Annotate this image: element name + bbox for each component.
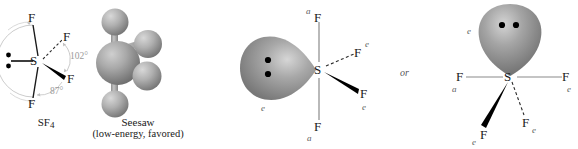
angle-arrowhead-87 bbox=[37, 93, 40, 96]
equatorial-tag-right: e bbox=[567, 85, 571, 94]
ligand-label-f-lower-left: F bbox=[480, 128, 487, 141]
ball-model-caption-line2: (low-energy, favored) bbox=[84, 128, 192, 139]
ligand-label-f-left: F bbox=[456, 70, 463, 83]
lone-pair-dot-right bbox=[513, 22, 519, 28]
equatorial-tag-upper: e bbox=[365, 40, 369, 49]
center-atom-label-s: S bbox=[314, 63, 321, 76]
lone-pair-dot-upper bbox=[265, 57, 271, 63]
lone-pair-dot-upper bbox=[6, 53, 11, 58]
ball-and-stick-panel: Seesaw (low-energy, favored) bbox=[84, 0, 192, 149]
bond-s-f-equatorial-dashed bbox=[326, 54, 354, 66]
bond-s-f-equatorial-wedge bbox=[324, 72, 359, 94]
ligand-label-f-equatorial-upper: F bbox=[354, 46, 361, 59]
middle-structure-drawing bbox=[228, 0, 388, 149]
ligand-label-f-lower-right: F bbox=[522, 116, 529, 129]
bond-s-f-axial-bottom bbox=[33, 67, 38, 98]
ligand-label-f-axial-top: F bbox=[314, 11, 321, 24]
ball-model-caption-line1: Seesaw bbox=[84, 116, 192, 128]
axial-tag-bottom: a bbox=[307, 134, 312, 143]
lewis-caption-subscript: 4 bbox=[50, 120, 55, 130]
bond-s-f-equatorial-dashed bbox=[43, 40, 62, 59]
ligand-label-f-equatorial-lower: F bbox=[67, 72, 74, 85]
ligand-sphere-upper-right bbox=[134, 30, 162, 58]
center-atom-label-s: S bbox=[504, 70, 511, 83]
axial-tag-left: a bbox=[452, 85, 457, 94]
bond-s-f-equatorial-wedge bbox=[42, 63, 66, 80]
lone-pair-lobe bbox=[479, 4, 542, 76]
lone-pair-dot-lower bbox=[6, 64, 11, 69]
lewis-caption-formula: SF bbox=[38, 116, 50, 128]
lone-pair-tag: e bbox=[261, 104, 265, 113]
equatorial-tag-lower-right: e bbox=[532, 126, 536, 135]
ligand-sphere-lower-right bbox=[133, 62, 162, 91]
ligand-label-f-axial-bottom: F bbox=[28, 97, 35, 110]
ball-model-caption: Seesaw (low-energy, favored) bbox=[84, 116, 192, 139]
ligand-label-f-axial-top: F bbox=[28, 11, 35, 24]
equatorial-tag-lower-left: e bbox=[472, 138, 476, 147]
center-atom-label-s: S bbox=[30, 54, 37, 67]
lone-pair-tag: e bbox=[467, 27, 471, 36]
or-label: or bbox=[400, 68, 409, 78]
ligand-label-f-axial-bottom: F bbox=[314, 120, 321, 133]
axial-tag-top: a bbox=[306, 7, 311, 16]
lewis-caption: SF4 bbox=[0, 116, 92, 130]
middle-structure-panel: S a F F a F e F e e bbox=[228, 0, 388, 149]
right-structure-panel: S F a F e F e F e e bbox=[436, 0, 578, 149]
ligand-label-f-right: F bbox=[562, 70, 569, 83]
bond-angle-87: 87° bbox=[50, 87, 63, 97]
ligand-label-f-equatorial-lower: F bbox=[360, 87, 367, 100]
lewis-structure-panel: S F F F F 102° 87° SF4 bbox=[0, 0, 92, 149]
bond-s-f-dashed-lower-right bbox=[512, 82, 524, 115]
or-connector-panel: or bbox=[388, 0, 436, 149]
ligand-sphere-bottom bbox=[102, 91, 129, 118]
bond-s-f-axial-top bbox=[33, 25, 38, 56]
ligand-sphere-top bbox=[102, 9, 129, 36]
lone-pair-dot-lower bbox=[265, 71, 271, 77]
lone-pair-lobe bbox=[240, 37, 316, 100]
ligand-label-f-equatorial-upper: F bbox=[63, 30, 70, 43]
bond-s-f-wedge-lower-left bbox=[481, 82, 508, 128]
equatorial-tag-lower: e bbox=[362, 103, 366, 112]
sf4-geometry-figure: S F F F F 102° 87° SF4 bbox=[0, 0, 578, 149]
lone-pair-dot-left bbox=[499, 22, 505, 28]
